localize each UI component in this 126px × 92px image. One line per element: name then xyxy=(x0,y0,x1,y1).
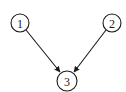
node-2-label: 2 xyxy=(109,17,115,31)
node-1-label: 1 xyxy=(17,17,23,31)
node-3-label: 3 xyxy=(64,75,70,89)
edge-1-to-3 xyxy=(26,30,60,72)
node-2: 2 xyxy=(103,14,121,32)
node-3: 3 xyxy=(57,71,77,91)
edge-2-to-3 xyxy=(74,30,106,72)
graph-diagram: 1 2 3 xyxy=(0,0,126,92)
node-1: 1 xyxy=(11,14,29,32)
